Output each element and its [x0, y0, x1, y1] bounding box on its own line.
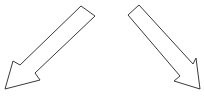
diagram-canvas: [0, 0, 204, 96]
arrow-down-left-icon: [5, 6, 95, 89]
arrows-svg: [0, 0, 204, 96]
arrow-down-right-icon: [128, 5, 200, 89]
